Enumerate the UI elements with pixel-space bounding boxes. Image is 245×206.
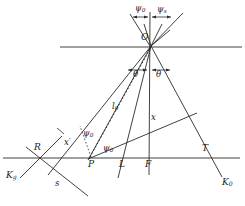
point-label-L: L xyxy=(119,160,125,169)
aux-ray-up-b xyxy=(151,24,162,46)
segment-label-xprime: x′ xyxy=(64,138,71,148)
diagram-canvas xyxy=(0,0,245,206)
vertical-axis-OF xyxy=(149,12,150,175)
angle-label-psi0-top: ψ0 xyxy=(135,4,145,14)
ray-diagram-figure: O P R L F T Kg K0 l0 x x′ s ψ0 ψs θ θ xyxy=(0,0,245,206)
scattered-ray-psis xyxy=(151,13,183,46)
tick-xprime xyxy=(57,128,64,134)
segment-label-x: x xyxy=(151,113,156,123)
angle-label-theta-right: θ xyxy=(156,70,161,80)
point-label-F: F xyxy=(145,160,151,169)
segment-label-l0: l0 xyxy=(112,102,119,112)
ray-O-to-Kg xyxy=(48,46,151,175)
axis-label-k0: K0 xyxy=(222,178,233,187)
segment-label-s: s xyxy=(55,179,59,189)
aux-ray-up-c xyxy=(151,30,170,46)
point-label-T: T xyxy=(202,144,208,153)
ray-O-to-K0 xyxy=(151,46,222,177)
kg-axis-line xyxy=(20,136,62,178)
angle-label-psi0-base: ψ0 xyxy=(103,144,113,154)
point-label-R: R xyxy=(34,143,41,152)
axis-label-kg: Kg xyxy=(6,171,17,180)
angle-label-psis-top: ψs xyxy=(157,5,167,15)
point-label-P: P xyxy=(88,160,94,169)
angle-label-psi0-mid: ψ0 xyxy=(83,129,93,139)
angle-label-theta-left: θ xyxy=(133,70,138,80)
point-label-O: O xyxy=(141,33,149,42)
